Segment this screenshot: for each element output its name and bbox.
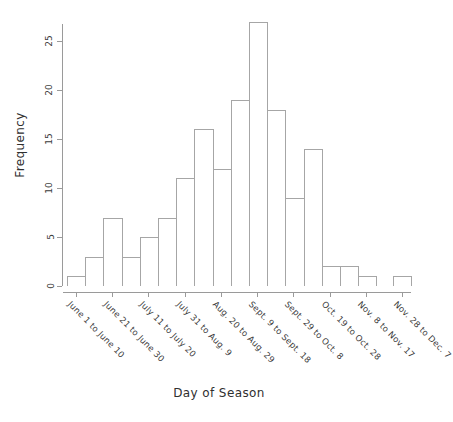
histogram-bar [358, 276, 377, 286]
histogram-bar [103, 218, 122, 287]
y-axis-tick-label: 25 [28, 34, 54, 48]
histogram-bar [285, 198, 304, 286]
histogram-bars [67, 10, 411, 286]
histogram-bar [85, 257, 104, 286]
x-axis-tick [221, 292, 222, 297]
histogram-bar [176, 178, 195, 286]
histogram-bar [340, 266, 359, 286]
y-axis-tick-label: 15 [28, 132, 54, 146]
x-axis-tick [330, 292, 331, 297]
histogram-bar [304, 149, 323, 286]
plot-area [67, 10, 411, 286]
x-axis-line [63, 292, 411, 293]
histogram-bar [67, 276, 86, 286]
y-axis-tick-label: 5 [28, 230, 54, 244]
x-axis-tick-label: Aug. 20 to Aug. 29 [211, 299, 277, 365]
histogram-bar [393, 276, 412, 286]
y-axis-tick-label: 10 [28, 181, 54, 195]
x-axis-tick [257, 292, 258, 297]
x-axis-tick-label: June 21 to June 30 [102, 299, 167, 364]
x-axis-title-text: Day of Season [173, 386, 265, 400]
x-axis-tick [185, 292, 186, 297]
y-axis-tick [57, 41, 62, 42]
y-axis-tick-label: 0 [28, 279, 54, 293]
x-axis-tick-label: Sept. 9 to Sept. 18 [247, 299, 313, 365]
histogram-bar [122, 257, 141, 286]
y-axis-line [62, 24, 63, 286]
y-axis-tick [57, 90, 62, 91]
histogram-bar [322, 266, 341, 286]
histogram-bar [158, 218, 177, 287]
x-axis-title: Day of Season [0, 386, 438, 400]
histogram-bar [213, 169, 232, 286]
y-axis-tick [57, 237, 62, 238]
histogram-bar [267, 110, 286, 286]
x-axis-tick [148, 292, 149, 297]
y-axis-tick [57, 139, 62, 140]
y-axis-title-text: Frequency [13, 112, 27, 178]
histogram-bar [231, 100, 250, 286]
histogram-bar [249, 22, 268, 286]
x-axis-tick [293, 292, 294, 297]
x-axis-tick [402, 292, 403, 297]
histogram-bar [140, 237, 159, 286]
y-axis-tick-label: 20 [28, 83, 54, 97]
y-axis-tick [57, 286, 62, 287]
x-axis-tick [112, 292, 113, 297]
x-axis-tick [366, 292, 367, 297]
y-axis-tick [57, 188, 62, 189]
x-axis-tick [76, 292, 77, 297]
histogram-bar [194, 129, 213, 286]
